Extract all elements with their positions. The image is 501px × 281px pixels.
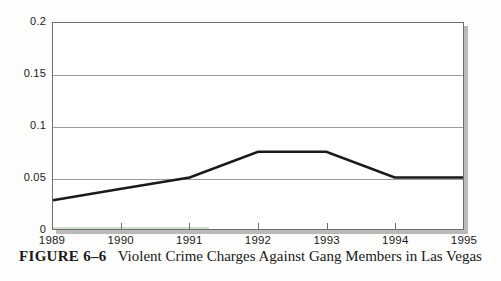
x-axis-tick-1989: 1989 — [22, 234, 82, 246]
x-axis-tick-mark — [189, 223, 190, 230]
x-axis-tick-1993: 1993 — [297, 234, 357, 246]
x-axis-tick-mark — [395, 223, 396, 230]
x-axis-tick-1991: 1991 — [159, 234, 219, 246]
y-axis-tick-0.1: 0.1 — [0, 119, 46, 131]
series-line-violent-crime-charges — [53, 23, 463, 229]
x-axis-tick-mark — [121, 223, 122, 230]
figure-caption: FIGURE 6–6Violent Crime Charges Against … — [0, 248, 501, 265]
figure-page: 00.050.10.150.2 198919901991199219931994… — [0, 0, 501, 281]
figure-caption-label: FIGURE 6–6 — [19, 248, 107, 264]
x-axis-tick-1990: 1990 — [91, 234, 151, 246]
figure-caption-title: Violent Crime Charges Against Gang Membe… — [118, 248, 482, 264]
x-axis-tick-mark — [258, 223, 259, 230]
x-axis-tick-1992: 1992 — [228, 234, 288, 246]
y-axis-tick-0.15: 0.15 — [0, 67, 46, 79]
y-axis-tick-0.2: 0.2 — [0, 15, 46, 27]
x-axis-tick-mark — [327, 223, 328, 230]
chart-area: 00.050.10.150.2 198919901991199219931994… — [0, 0, 501, 246]
y-axis-tick-0.05: 0.05 — [0, 171, 46, 183]
plot-box — [52, 22, 464, 230]
x-axis-tick-1994: 1994 — [365, 234, 425, 246]
x-axis-tick-1995: 1995 — [434, 234, 494, 246]
